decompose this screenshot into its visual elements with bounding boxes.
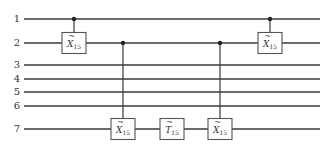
circuit-diagram <box>0 0 335 145</box>
control-dot <box>268 17 272 21</box>
gate-x-box <box>258 33 282 54</box>
qubit-label: 5 <box>10 87 20 97</box>
qubit-label: 4 <box>10 74 20 84</box>
qubit-label: 6 <box>10 101 20 111</box>
qubit-label: 2 <box>10 38 20 48</box>
qubit-label: 3 <box>10 60 20 70</box>
gate-x-box <box>62 33 86 54</box>
qubit-label: 7 <box>10 124 20 134</box>
qubit-label: 1 <box>10 14 20 24</box>
gate-x-box <box>111 119 135 140</box>
control-dot <box>121 41 125 45</box>
control-dot <box>72 17 76 21</box>
gate-t-box <box>160 119 184 140</box>
control-dot <box>218 41 222 45</box>
gate-x-box <box>208 119 232 140</box>
